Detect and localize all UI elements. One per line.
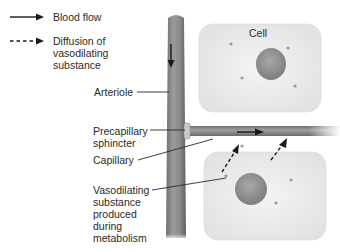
capillary-label: Capillary (93, 154, 134, 166)
arteriole-label: Arteriole (94, 86, 133, 98)
sphincter-line-1: Precapillary (93, 125, 148, 137)
precapillary-sphincter-ring (184, 123, 190, 139)
vasodilating-line-4: during (93, 220, 149, 232)
sphincter-line-2: sphincter (93, 137, 148, 149)
vasodilating-line-1: Vasodilating (93, 184, 149, 196)
cell-bottom (204, 144, 326, 240)
legend-diffusion-line-2: vasodilating (53, 47, 108, 59)
diagram-canvas (0, 0, 340, 252)
vasodilating-line-3: produced (93, 208, 149, 220)
vasodilating-substance-label: Vasodilating substance produced during m… (93, 184, 149, 244)
nucleus (256, 48, 286, 80)
precapillary-sphincter-label: Precapillary sphincter (93, 125, 148, 149)
legend-diffusion-label: Diffusion of vasodilating substance (53, 35, 108, 71)
legend-solid-arrow-icon (10, 14, 44, 21)
vasodilating-line-2: substance (93, 196, 149, 208)
cell-label: Cell (249, 27, 267, 39)
legend-dashed-arrow-icon (10, 38, 44, 45)
legend-blood-flow-label: Blood flow (53, 11, 101, 23)
legend-diffusion-line-1: Diffusion of (53, 35, 108, 47)
legend-diffusion-line-3: substance (53, 59, 108, 71)
nucleus (235, 173, 267, 205)
vasodilating-line-5: metabolism (93, 232, 149, 244)
